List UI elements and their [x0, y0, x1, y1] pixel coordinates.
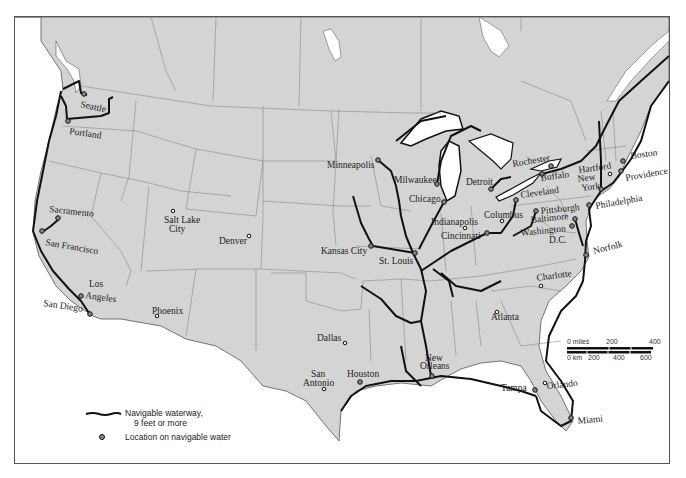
label-orlando: Orlando — [546, 378, 578, 391]
scale-miles-200: 200 — [606, 338, 618, 345]
scale-miles-label: 0 miles — [567, 338, 590, 345]
label-indianapolis: Indianapolis — [431, 217, 478, 227]
label-detroit: Detroit — [466, 177, 493, 187]
label-antonio: Antonio — [303, 378, 334, 388]
legend-waterway-line2: 9 feet or more — [134, 418, 187, 428]
label-minneapolis: Minneapolis — [327, 160, 375, 170]
land — [15, 17, 669, 441]
label-salt-lake-city: City — [169, 224, 186, 234]
label-tampa: Tampa — [501, 383, 527, 393]
waterway-legend-line — [86, 413, 121, 415]
label-milwaukee: Milwaukee — [394, 175, 437, 185]
label-boston: Boston — [630, 147, 658, 161]
label-phoenix: Phoenix — [152, 306, 183, 316]
scale-km-400: 400 — [613, 354, 625, 361]
label-denver: Denver — [219, 236, 248, 246]
label-cincinnati: Cincinnati — [441, 231, 481, 241]
location-legend-icon — [100, 435, 105, 440]
label-norfolk: Norfolk — [592, 239, 624, 256]
legend-waterway-line1: Navigable waterway, — [125, 408, 203, 418]
label-atlanta: Atlanta — [491, 312, 520, 322]
us-waterways-map: Seattle Portland Sacramento San Francisc… — [15, 17, 669, 463]
label-st-louis: St. Louis — [379, 256, 414, 266]
scale-km-200: 200 — [588, 354, 600, 361]
scale-km-label: 0 km — [567, 354, 582, 361]
legend: Navigable waterway, 9 feet or more Locat… — [86, 408, 231, 442]
label-providence: Providence — [625, 166, 669, 183]
label-houston: Houston — [347, 369, 379, 379]
label-columbus: Columbus — [484, 210, 523, 220]
label-miami: Miami — [577, 413, 604, 426]
label-kansas-city: Kansas City — [321, 246, 367, 256]
scale-km-600: 600 — [640, 354, 652, 361]
label-philadelphia: Philadelphia — [595, 193, 644, 211]
label-chicago: Chicago — [409, 194, 441, 204]
scale-miles-400: 400 — [649, 338, 661, 345]
label-dc: D.C. — [549, 235, 567, 245]
map-frame: Seattle Portland Sacramento San Francisc… — [14, 16, 670, 464]
legend-location: Location on navigable water — [125, 432, 231, 442]
label-new-orleans-2: Orleans — [420, 361, 450, 371]
label-dallas: Dallas — [317, 333, 342, 343]
label-los: Los — [89, 279, 104, 289]
scale-bar: 0 miles 200 400 0 km 200 400 600 — [567, 338, 661, 361]
